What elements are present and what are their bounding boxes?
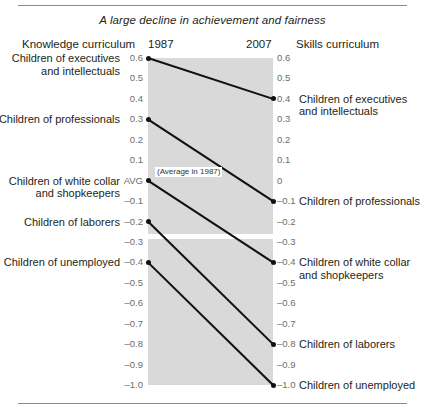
- right-tick-neg0p5: –0.5: [277, 278, 301, 288]
- plot-panel: [148, 58, 273, 385]
- left-label-0: Children of executivesand intellectuals: [0, 52, 120, 77]
- right-tick-neg0p8: –0.8: [277, 339, 301, 349]
- left-label-3: Children of laborers: [0, 216, 120, 229]
- right-tick-neg0p4: –0.4: [277, 257, 301, 267]
- left-tick-neg0p4: –0.4: [119, 257, 143, 267]
- left-tick-neg0p2: –0.2: [119, 217, 143, 227]
- right-label-3-line-0: Children of laborers: [299, 338, 425, 351]
- left-tick-neg1: –1.0: [119, 380, 143, 390]
- right-label-0-line-1: and intellectuals: [299, 105, 425, 118]
- left-tick-0p2: 0.2: [119, 135, 143, 145]
- right-tick-0p3: 0.3: [277, 114, 301, 124]
- right-tick-0: 0: [277, 176, 301, 186]
- right-tick-0p2: 0.2: [277, 135, 301, 145]
- datapoint-dot-1-end: [271, 199, 276, 204]
- left-label-4-line-0: Children of unemployed: [0, 256, 120, 269]
- right-label-2-line-0: Children of white collar: [299, 256, 425, 269]
- header-year-2007: 2007: [246, 38, 272, 50]
- left-tick-neg0p1: –0.1: [119, 196, 143, 206]
- right-tick-neg1: –1.0: [277, 380, 301, 390]
- right-label-1: Children of professionals: [299, 195, 425, 208]
- left-tick-neg0p6: –0.6: [119, 298, 143, 308]
- right-tick-0p5: 0.5: [277, 73, 301, 83]
- left-label-2-line-0: Children of white collar: [0, 175, 120, 188]
- left-label-3-line-0: Children of laborers: [0, 216, 120, 229]
- datapoint-dot-0-start: [146, 56, 151, 61]
- left-tick-0p1: 0.1: [119, 155, 143, 165]
- left-tick-0p4: 0.4: [119, 94, 143, 104]
- right-label-4: Children of unemployed: [299, 379, 425, 392]
- left-tick-0p5: 0.5: [119, 73, 143, 83]
- left-label-1-line-0: Children of professionals: [0, 113, 120, 126]
- right-tick-neg0p9: –0.9: [277, 360, 301, 370]
- left-label-2: Children of white collarand shopkeepers: [0, 175, 120, 200]
- chart-title: A large decline in achievement and fairn…: [0, 14, 425, 26]
- right-tick-neg0p1: –0.1: [277, 196, 301, 206]
- right-tick-0p6: 0.6: [277, 53, 301, 63]
- header-knowledge-curriculum: Knowledge curriculum: [22, 38, 135, 50]
- datapoint-dot-4-end: [271, 383, 276, 388]
- left-label-2-line-1: and shopkeepers: [0, 187, 120, 200]
- left-tick-0p3: 0.3: [119, 114, 143, 124]
- datapoint-dot-2-start: [146, 178, 151, 183]
- left-label-0-line-0: Children of executives: [0, 52, 120, 65]
- header-year-1987: 1987: [148, 38, 174, 50]
- left-tick-neg0p3: –0.3: [119, 237, 143, 247]
- left-tick-0: AVG: [119, 176, 143, 186]
- right-label-2-line-1: and shopkeepers: [299, 269, 425, 282]
- top-rule: [18, 5, 407, 6]
- left-tick-neg0p9: –0.9: [119, 360, 143, 370]
- right-label-3: Children of laborers: [299, 338, 425, 351]
- left-tick-0p6: 0.6: [119, 53, 143, 63]
- datapoint-dot-1-start: [146, 117, 151, 122]
- datapoint-dot-0-end: [271, 96, 276, 101]
- right-label-0: Children of executivesand intellectuals: [299, 93, 425, 118]
- right-tick-neg0p3: –0.3: [277, 237, 301, 247]
- datapoint-dot-2-end: [271, 260, 276, 265]
- right-label-4-line-0: Children of unemployed: [299, 379, 425, 392]
- right-label-2: Children of white collarand shopkeepers: [299, 256, 425, 281]
- right-tick-neg0p7: –0.7: [277, 319, 301, 329]
- header-skills-curriculum: Skills curriculum: [296, 38, 379, 50]
- slopegraph-figure: A large decline in achievement and fairn…: [0, 0, 425, 415]
- left-label-4: Children of unemployed: [0, 256, 120, 269]
- left-tick-neg0p5: –0.5: [119, 278, 143, 288]
- left-tick-neg0p7: –0.7: [119, 319, 143, 329]
- datapoint-dot-3-end: [271, 342, 276, 347]
- left-tick-neg0p8: –0.8: [119, 339, 143, 349]
- right-label-1-line-0: Children of professionals: [299, 195, 425, 208]
- zero-reference-band: [148, 234, 273, 239]
- average-annotation: (Average in 1987): [155, 167, 222, 177]
- right-label-0-line-0: Children of executives: [299, 93, 425, 106]
- bottom-rule: [18, 403, 407, 404]
- left-label-1: Children of professionals: [0, 113, 120, 126]
- datapoint-dot-3-start: [146, 219, 151, 224]
- datapoint-dot-4-start: [146, 260, 151, 265]
- right-tick-0p1: 0.1: [277, 155, 301, 165]
- left-label-0-line-1: and intellectuals: [0, 65, 120, 78]
- right-tick-0p4: 0.4: [277, 94, 301, 104]
- right-tick-neg0p2: –0.2: [277, 217, 301, 227]
- right-tick-neg0p6: –0.6: [277, 298, 301, 308]
